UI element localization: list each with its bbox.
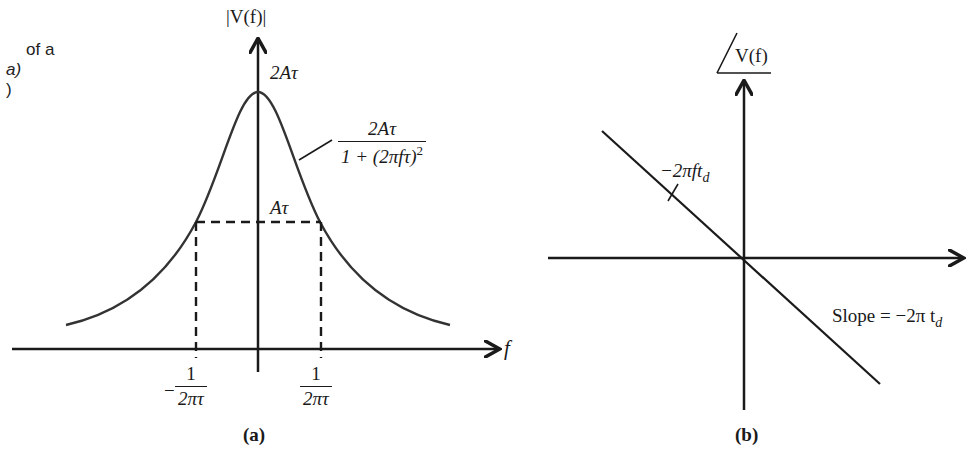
a-formula-exponent: 2 <box>417 143 424 158</box>
a-y-axis-label-text: |V(f)| <box>226 6 266 27</box>
a-formula-den-text: 1 + (2πfτ) <box>341 146 417 167</box>
b-line-label-sub: d <box>702 170 709 185</box>
a-peak-label: 2Aτ <box>270 62 298 84</box>
a-caption: (a) <box>243 424 265 446</box>
b-slope-label: Slope = −2π td <box>832 305 942 331</box>
a-pos-tick-label: 1 2πτ <box>300 363 332 410</box>
a-half-level-label: Aτ <box>270 197 288 219</box>
side-caption-fragment: of a a) ) <box>6 40 54 100</box>
side-line-3: ) <box>6 80 54 100</box>
b-caption: (b) <box>735 424 758 446</box>
b-y-axis-label: V(f) <box>735 45 768 67</box>
b-slope-label-main: Slope = −2π t <box>832 305 935 326</box>
a-neg-tick-minus: − <box>164 380 175 402</box>
a-x-axis-label: f <box>504 336 510 361</box>
panel-a-plot <box>12 40 498 372</box>
a-pos-tick-den: 2πτ <box>300 386 332 410</box>
a-neg-tick-den: 2πτ <box>175 386 207 410</box>
a-pos-tick-num: 1 <box>308 363 324 386</box>
a-formula-numerator: 2Aτ <box>365 118 399 141</box>
side-line-1: of a <box>6 40 54 60</box>
side-line-2: a) <box>6 60 54 80</box>
figure-graphics <box>0 0 970 456</box>
a-curve-formula: 2Aτ 1 + (2πfτ)2 <box>338 118 426 168</box>
a-formula-denominator: 1 + (2πfτ)2 <box>338 141 426 168</box>
a-neg-tick-num: 1 <box>183 363 199 386</box>
a-y-axis-label: |V(f)| <box>226 6 266 28</box>
a-formula-leader <box>299 140 332 160</box>
panel-b-plot <box>548 33 962 410</box>
b-line-label-main: −2πft <box>660 160 702 181</box>
b-line-label: −2πftd <box>660 160 709 186</box>
a-neg-tick-label: 1 2πτ <box>175 363 207 410</box>
b-slope-label-sub: d <box>935 315 942 330</box>
